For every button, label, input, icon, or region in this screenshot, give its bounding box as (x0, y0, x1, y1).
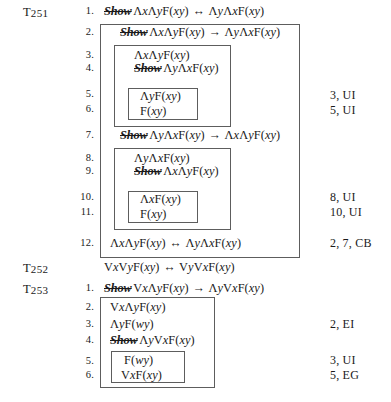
formula-line-7: ShowΛyΛxF(xy) → ΛxΛyF(xy) (120, 129, 280, 141)
annotation-t253-line-5: 3, UI (330, 353, 356, 368)
formula-line-2: ShowΛxΛyF(xy) → ΛyΛxF(xy) (120, 26, 280, 38)
line-number: 9. (64, 165, 94, 176)
line-number: 10. (64, 191, 94, 202)
annotation-line-12: 2, 7, CB (330, 236, 372, 251)
annotation-line-6: 5, UI (330, 103, 356, 118)
formula-line-9: ShowΛxΛyF(xy) (134, 165, 219, 177)
line-number: 8. (64, 152, 94, 163)
formula-t253-line-3: ΛyF(wy) (110, 318, 154, 330)
formula-t253-line-6: VxF(xy) (121, 369, 162, 381)
line-number: 1. (64, 282, 94, 293)
formula-line-1: ShowΛxΛyF(xy) ↔ ΛyΛxF(xy) (104, 5, 264, 17)
line-number: 5. (64, 355, 94, 366)
line-number: 1. (64, 5, 94, 16)
line-number: 6. (64, 103, 94, 114)
line-number: 7. (64, 129, 94, 140)
line-number: 3. (64, 49, 94, 60)
formula-line-11: F(xy) (140, 208, 166, 220)
line-number: 2. (64, 301, 94, 312)
line-number: 4. (64, 62, 94, 73)
line-number: 4. (64, 334, 94, 345)
formula-t253-line-2: VxΛyF(xy) (110, 301, 166, 313)
annotation-line-10: 8, UI (330, 190, 356, 205)
line-number: 3. (64, 318, 94, 329)
formula-line-8: ΛyΛxF(xy) (134, 152, 190, 164)
derivation-page: T251 1. 2. 3. 4. 5. 6. 7. 8. 9. 10. 11. … (0, 0, 391, 402)
formula-line-10: ΛxF(xy) (140, 193, 181, 205)
line-number: 12. (64, 237, 94, 248)
line-number: 6. (64, 369, 94, 380)
formula-t253-line-4: ShowΛyVxF(xy) (110, 334, 195, 346)
line-number: 2. (64, 26, 94, 37)
theorem-label-t251: T251 (23, 5, 48, 20)
formula-line-12: ΛxΛyF(xy) ↔ ΛyΛxF(xy) (110, 237, 241, 249)
formula-t253-line-5: F(wy) (124, 354, 153, 366)
formula-line-4: ShowΛyΛxF(xy) (134, 62, 219, 74)
annotation-t253-line-6: 5, EG (330, 368, 359, 383)
theorem-statement-t252: VxVyF(xy) ↔ VyVxF(xy) (104, 261, 235, 273)
annotation-line-5: 3, UI (330, 88, 356, 103)
formula-line-3: ΛxΛyF(xy) (134, 49, 190, 61)
theorem-label-t253: T253 (23, 282, 48, 297)
formula-line-5: ΛyF(xy) (140, 90, 181, 102)
line-number: 11. (64, 206, 94, 217)
annotation-t253-line-3: 2, EI (330, 317, 354, 332)
formula-line-6: F(xy) (140, 105, 166, 117)
formula-t253-line-1: ShowVxΛyF(xy) → ΛyVxF(xy) (104, 282, 264, 294)
annotation-line-11: 10, UI (330, 205, 362, 220)
line-number: 5. (64, 88, 94, 99)
theorem-label-t252: T252 (23, 261, 48, 276)
